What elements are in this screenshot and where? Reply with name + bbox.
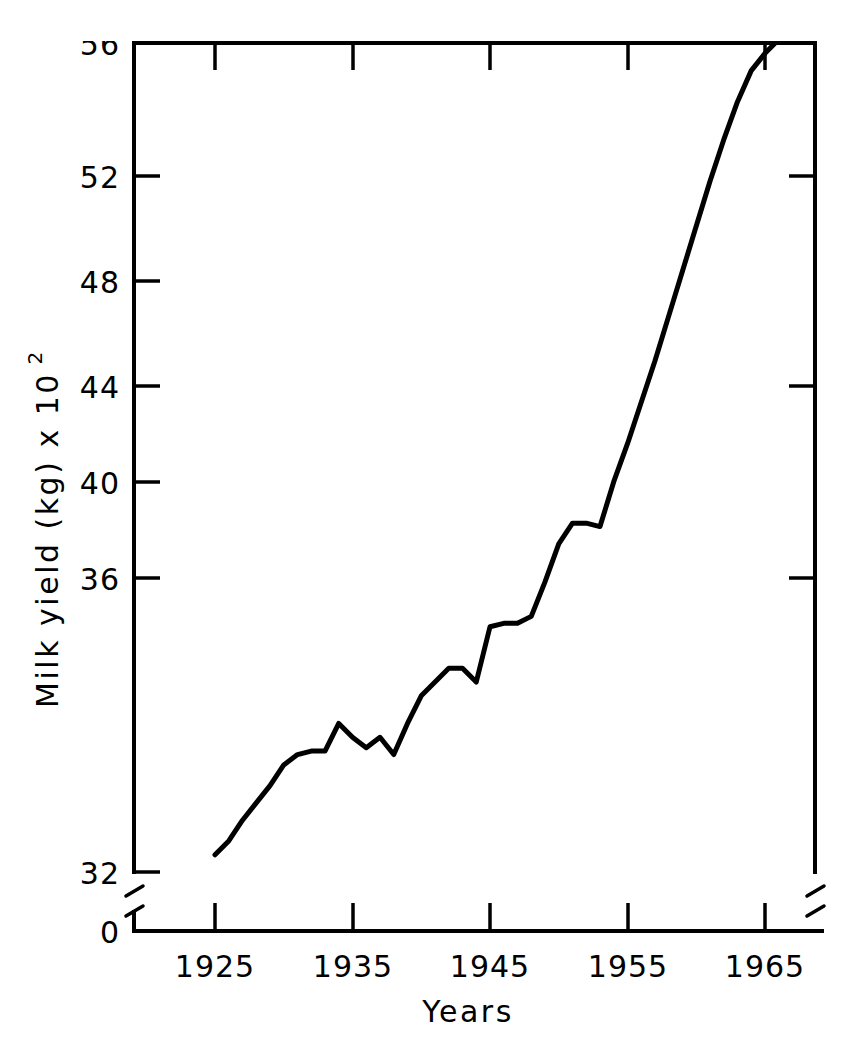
y-axis-title-group: Milk yield (kg) x 10 2 (23, 352, 65, 708)
y-tick-label-44: 44 (80, 370, 120, 405)
y-tick-label-48: 48 (80, 265, 120, 300)
x-tick-label-1925: 1925 (175, 949, 255, 984)
y-axis-break-lower-right-icon (807, 906, 824, 916)
y-tick-label-32: 32 (80, 856, 120, 891)
x-axis-ticks (215, 903, 765, 931)
x-tick-label-1965: 1965 (725, 949, 805, 984)
y-origin-label-0: 0 (100, 915, 120, 950)
y-axis-break-upper-icon (126, 886, 143, 896)
y-tick-label-36: 36 (80, 562, 120, 597)
y-axis-ticks (134, 43, 160, 872)
y-axis-title-superscript: 2 (23, 352, 47, 365)
y-tick-label-40: 40 (80, 466, 120, 501)
x-axis-title: Years (421, 994, 514, 1029)
y-axis-ticks-right (789, 176, 815, 578)
y-axis-title: Milk yield (kg) x 10 (30, 372, 65, 708)
milk-yield-data-line (215, 40, 779, 855)
x-tick-label-1935: 1935 (313, 949, 393, 984)
chart-page: 56 52 48 44 40 36 32 0 1925 1935 1945 19… (0, 0, 857, 1044)
top-overflow-mask (0, 0, 857, 41)
x-tick-label-1945: 1945 (450, 949, 530, 984)
x-tick-label-1955: 1955 (588, 949, 668, 984)
y-tick-label-52: 52 (80, 160, 120, 195)
y-axis-break-upper-right-icon (807, 886, 824, 896)
milk-yield-line-chart: 56 52 48 44 40 36 32 0 1925 1935 1945 19… (0, 0, 857, 1044)
top-axis-ticks (215, 43, 765, 70)
